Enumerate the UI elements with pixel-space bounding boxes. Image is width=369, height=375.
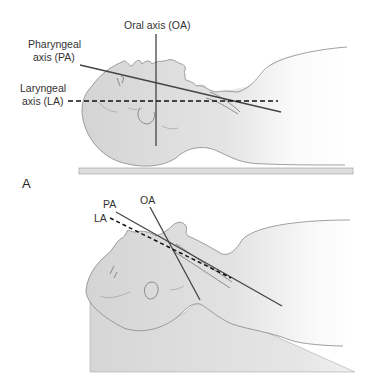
pharyngeal-axis-label-a-line2: axis (PA) — [33, 51, 75, 63]
laryngeal-axis-label-a-line2: axis (LA) — [22, 95, 63, 107]
table-a — [79, 168, 353, 174]
pharyngeal-axis-label-a-line1: Pharyngeal — [28, 38, 81, 50]
oral-axis-label-a: Oral axis (OA) — [124, 19, 191, 31]
panel-a: Oral axis (OA) Pharyngeal axis (PA) Lary… — [20, 19, 353, 191]
airway-axes-diagram: Oral axis (OA) Pharyngeal axis (PA) Lary… — [0, 0, 369, 375]
panel-label-a: A — [22, 176, 31, 191]
oral-axis-label-b: OA — [140, 194, 155, 206]
head-silhouette-a — [82, 47, 345, 166]
laryngeal-axis-label-a-line1: Laryngeal — [20, 82, 66, 94]
panel-b: PA OA LA — [86, 194, 355, 372]
laryngeal-axis-label-b: LA — [94, 212, 107, 224]
pharyngeal-axis-label-b: PA — [103, 198, 116, 210]
